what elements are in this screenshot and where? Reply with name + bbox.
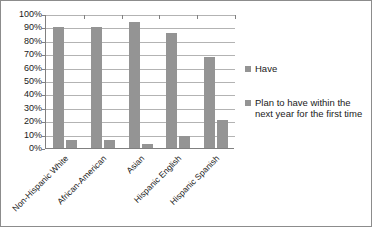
- gridline: [46, 15, 235, 16]
- gridline: [46, 28, 235, 29]
- y-axis-tick-label: 40%: [2, 90, 42, 99]
- gridline: [46, 42, 235, 43]
- y-axis-tick-label: 50%: [2, 77, 42, 86]
- y-axis-tick-label: 30%: [2, 104, 42, 113]
- y-axis-tick-label: 100%: [2, 10, 42, 19]
- bar: [204, 57, 215, 148]
- y-axis-tick-label: 60%: [2, 64, 42, 73]
- chart-frame: 100%90%80%70%60%50%40%30%20%10%0% Non-Hi…: [0, 0, 372, 227]
- x-axis-tick-mark: [84, 15, 85, 19]
- bar: [142, 144, 153, 148]
- y-axis-tick-mark: [42, 149, 45, 150]
- bar: [53, 27, 64, 148]
- x-axis-tick-mark: [122, 15, 123, 19]
- plot-area: [45, 15, 234, 149]
- y-axis-tick-label: 0%: [2, 144, 42, 153]
- chart-legend: HavePlan to have within the next year fo…: [245, 63, 365, 142]
- y-axis-tick-label: 90%: [2, 23, 42, 32]
- y-axis-tick-label: 70%: [2, 50, 42, 59]
- x-axis-tick-mark: [235, 15, 236, 19]
- legend-swatch-icon: [245, 66, 251, 72]
- legend-swatch-icon: [245, 100, 251, 106]
- bar: [91, 27, 102, 148]
- legend-entry[interactable]: Have: [245, 63, 365, 75]
- bar: [104, 140, 115, 148]
- legend-label: Have: [255, 63, 277, 75]
- bar: [166, 33, 177, 148]
- bar: [66, 140, 77, 148]
- x-axis-tick-mark: [197, 15, 198, 19]
- legend-entry[interactable]: Plan to have within the next year for th…: [245, 97, 365, 120]
- bar: [217, 120, 228, 148]
- legend-label: Plan to have within the next year for th…: [255, 97, 365, 120]
- y-axis-tick-label: 80%: [2, 37, 42, 46]
- bar: [129, 22, 140, 148]
- y-axis-tick-label: 10%: [2, 131, 42, 140]
- bar: [179, 136, 190, 148]
- x-axis-tick-mark: [159, 15, 160, 19]
- y-axis-tick-label: 20%: [2, 117, 42, 126]
